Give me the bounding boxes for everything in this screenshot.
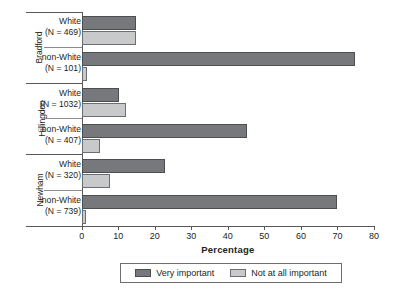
legend-swatch-very-important [135, 269, 151, 277]
x-axis-line [26, 226, 374, 227]
group-sample-size: (N = 469) [21, 27, 81, 38]
bar-very-important-bradford-white [82, 16, 137, 30]
bar-chart-figure: Bradford Hillingdon Newham White (N = 46… [0, 0, 402, 298]
x-tick-label-70: 70 [322, 231, 352, 241]
group-ethnicity: non-White [21, 124, 81, 135]
group-ethnicity: non-White [21, 52, 81, 63]
x-tick-label-40: 40 [213, 231, 243, 241]
bar-not-at-all-important-newham-non-white [82, 210, 86, 224]
legend-label: Not at all important [251, 268, 327, 278]
legend-swatch-not-at-all-important [230, 269, 246, 277]
group-label-bradford-nonwhite: non-White (N = 101) [21, 52, 81, 74]
group-sample-size: (N = 101) [21, 63, 81, 74]
legend-item-not-at-all-important[interactable]: Not at all important [230, 268, 327, 278]
bar-not-at-all-important-bradford-white [82, 31, 136, 45]
bars-layer [82, 12, 374, 226]
group-sample-size: (N = 407) [21, 135, 81, 146]
x-tick-label-20: 20 [140, 231, 170, 241]
x-tick-label-0: 0 [67, 231, 97, 241]
bar-not-at-all-important-bradford-non-white [82, 67, 87, 81]
bar-very-important-hillingdon-non-white [82, 124, 247, 138]
bar-not-at-all-important-hillingdon-non-white [82, 139, 100, 153]
x-tick-70 [337, 226, 338, 230]
bar-very-important-newham-white [82, 159, 165, 173]
legend-label: Very important [156, 268, 214, 278]
x-tick-40 [228, 226, 229, 230]
x-tick-label-10: 10 [103, 231, 133, 241]
group-ethnicity: White [21, 159, 81, 170]
group-label-bradford-white: White (N = 469) [21, 16, 81, 38]
x-tick-label-80: 80 [359, 231, 389, 241]
chart-legend: Very important Not at all important [120, 263, 342, 283]
group-label-hillingdon-white: White (N = 1032) [21, 88, 81, 110]
legend-item-very-important[interactable]: Very important [135, 268, 214, 278]
group-ethnicity: White [21, 88, 81, 99]
bar-very-important-bradford-non-white [82, 52, 356, 66]
bar-not-at-all-important-hillingdon-white [82, 103, 126, 117]
bar-very-important-newham-non-white [82, 195, 337, 209]
group-ethnicity: non-White [21, 195, 81, 206]
x-tick-0 [82, 226, 83, 230]
bar-very-important-hillingdon-white [82, 88, 119, 102]
group-label-newham-nonwhite: non-White (N = 739) [21, 195, 81, 217]
x-tick-30 [191, 226, 192, 230]
group-label-hillingdon-nonwhite: non-White (N = 407) [21, 124, 81, 146]
x-tick-label-30: 30 [176, 231, 206, 241]
x-tick-label-50: 50 [249, 231, 279, 241]
x-tick-60 [301, 226, 302, 230]
x-tick-10 [118, 226, 119, 230]
x-tick-label-60: 60 [286, 231, 316, 241]
group-sample-size: (N = 739) [21, 206, 81, 217]
x-tick-20 [155, 226, 156, 230]
group-sample-size: (N = 1032) [21, 99, 81, 110]
group-sample-size: (N = 320) [21, 170, 81, 181]
group-label-newham-white: White (N = 320) [21, 159, 81, 181]
group-ethnicity: White [21, 16, 81, 27]
x-tick-80 [374, 226, 375, 230]
x-axis-title: Percentage [82, 244, 374, 255]
bar-not-at-all-important-newham-white [82, 174, 110, 188]
x-tick-50 [264, 226, 265, 230]
